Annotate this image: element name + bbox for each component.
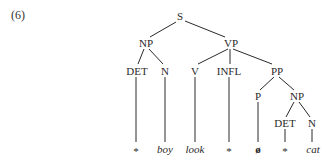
edge-np-n2 bbox=[299, 102, 310, 117]
node-pp: PP bbox=[271, 65, 283, 77]
node-det: DET bbox=[126, 65, 148, 77]
node-vp: VP bbox=[224, 37, 238, 49]
node-n-object: N bbox=[308, 117, 316, 129]
edge-vp-v bbox=[198, 49, 228, 64]
leaf-infl-empty: * bbox=[226, 145, 232, 157]
tree-nodes: S NP VP DET N V INFL PP P NP DET N bbox=[126, 10, 316, 129]
node-v: V bbox=[191, 65, 199, 77]
leaf-det-empty: * bbox=[133, 145, 139, 157]
edge-s-vp bbox=[185, 21, 225, 37]
node-n: N bbox=[161, 65, 169, 77]
example-number: (6) bbox=[11, 8, 25, 22]
edge-pp-np bbox=[279, 77, 294, 90]
node-np-object: NP bbox=[290, 90, 304, 102]
leaf-null-preposition: ø bbox=[255, 143, 261, 155]
syntax-tree-diagram: (6) S NP VP DET N V INFL PP P NP DET N bbox=[0, 0, 331, 163]
edge-np-n bbox=[149, 49, 163, 64]
leaf-det2-empty: * bbox=[282, 145, 288, 157]
leaf-boy: boy bbox=[157, 143, 173, 155]
edge-np-det bbox=[138, 49, 144, 64]
tree-leaves: * boy look * ø * cat bbox=[133, 143, 320, 157]
node-p: P bbox=[255, 90, 261, 102]
leaf-look: look bbox=[186, 143, 206, 155]
node-det-object: DET bbox=[274, 117, 296, 129]
edge-pp-p bbox=[260, 77, 274, 90]
leaf-cat: cat bbox=[306, 143, 320, 155]
node-np: NP bbox=[139, 37, 153, 49]
edge-s-np bbox=[150, 22, 176, 37]
node-infl: INFL bbox=[217, 65, 242, 77]
edge-vp-pp bbox=[233, 49, 272, 64]
node-s: S bbox=[177, 10, 183, 22]
edge-np-det2 bbox=[286, 102, 294, 117]
